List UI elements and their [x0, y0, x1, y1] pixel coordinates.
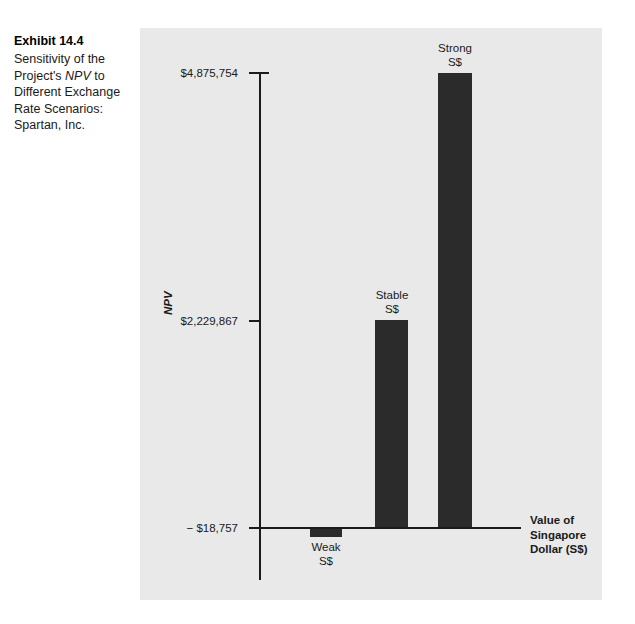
- bar-label-strong: Strong S$: [421, 41, 489, 69]
- x-axis-title: Value of Singapore Dollar (S$): [530, 513, 588, 557]
- x-axis-title-line-2: Singapore: [530, 528, 588, 543]
- exhibit-caption: Exhibit 14.4 Sensitivity of the Project'…: [14, 33, 132, 134]
- bar-label-strong-line-1: Strong: [421, 41, 489, 55]
- x-axis-title-line-1: Value of: [530, 513, 588, 528]
- bar-label-stable-line-1: Stable: [358, 288, 426, 302]
- y-tick-mark-middle: [249, 320, 259, 322]
- y-axis-line: [259, 72, 261, 580]
- bar-stable-sgd: [375, 320, 408, 527]
- bar-label-weak-line-1: Weak: [293, 540, 359, 554]
- y-axis-title: NPV: [162, 291, 174, 315]
- bar-label-weak: Weak S$: [293, 540, 359, 568]
- bar-weak-sgd: [310, 529, 342, 537]
- bar-label-stable: Stable S$: [358, 288, 426, 316]
- y-tick-mark-top: [249, 72, 259, 74]
- y-tick-mark-bottom: [249, 527, 259, 529]
- bar-label-strong-line-2: S$: [421, 55, 489, 69]
- bar-label-stable-line-2: S$: [358, 302, 426, 316]
- bar-label-weak-line-2: S$: [293, 554, 359, 568]
- y-tick-label-middle: $2,229,867: [180, 315, 238, 327]
- exhibit-description: Sensitivity of the Project's NPV to Diff…: [14, 51, 132, 134]
- x-axis-line: [259, 527, 521, 529]
- y-tick-label-top: $4,875,754: [180, 67, 238, 79]
- x-axis-title-line-3: Dollar (S$): [530, 542, 588, 557]
- y-axis-top-cap: [259, 72, 269, 74]
- chart-panel: $4,875,754 $2,229,867 − $18,757 NPV Valu…: [140, 28, 602, 600]
- exhibit-description-npv: NPV: [65, 69, 91, 83]
- y-tick-label-bottom: − $18,757: [187, 522, 238, 534]
- bar-strong-sgd: [438, 73, 472, 527]
- exhibit-number: Exhibit 14.4: [14, 33, 132, 49]
